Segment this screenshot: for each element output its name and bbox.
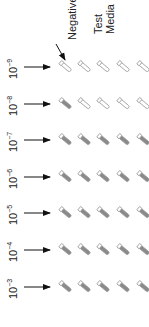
tube-filled (137, 133, 149, 145)
tube-filled (137, 170, 149, 182)
tube-filled (137, 280, 149, 292)
tube-diagram (0, 0, 149, 327)
tube-filled (117, 206, 130, 218)
tube-filled (117, 243, 130, 255)
tube-filled (78, 170, 91, 182)
tube-filled (117, 280, 130, 292)
tube-empty (97, 97, 110, 109)
tube-empty (97, 60, 110, 72)
tube-filled (97, 133, 110, 145)
tube-empty (78, 60, 91, 72)
tube-filled (59, 206, 72, 218)
tube-filled (59, 243, 72, 255)
negative-pointer-arrow (56, 44, 65, 60)
tube-filled (78, 280, 91, 292)
tube-filled (97, 170, 110, 182)
tube-filled (97, 206, 110, 218)
tube-empty (137, 60, 149, 72)
tube-filled (78, 133, 91, 145)
tube-filled (137, 206, 149, 218)
tube-empty (59, 60, 72, 72)
tube-filled (59, 133, 72, 145)
tube-filled (97, 243, 110, 255)
tube-empty (78, 97, 91, 109)
tube-filled (59, 97, 72, 109)
tube-filled (59, 280, 72, 292)
tube-filled (97, 280, 110, 292)
tube-empty (137, 97, 149, 109)
tube-filled (137, 243, 149, 255)
tube-filled (59, 170, 72, 182)
tube-filled (117, 170, 130, 182)
tube-filled (78, 243, 91, 255)
tube-filled (78, 206, 91, 218)
tube-filled (117, 133, 130, 145)
tube-empty (117, 60, 130, 72)
tube-empty (117, 97, 130, 109)
